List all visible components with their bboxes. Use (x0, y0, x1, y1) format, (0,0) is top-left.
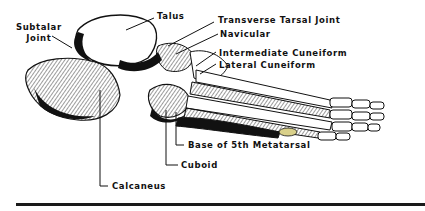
calcaneus-bone (26, 58, 120, 120)
label-navicular: Navicular (220, 30, 271, 39)
label-intermediate-cuneiform: Intermediate Cuneiform (219, 49, 347, 58)
label-base-5th-metatarsal: Base of 5th Metatarsal (188, 141, 310, 150)
label-transverse-tarsal-joint: Transverse Tarsal Joint (218, 16, 340, 25)
label-cuboid: Cuboid (181, 161, 218, 170)
bottom-rule-divider (16, 203, 425, 206)
foot-bones-illustration (0, 0, 425, 211)
label-subtalar-joint: Subtalar Joint (16, 22, 62, 44)
label-calcaneus: Calcaneus (112, 182, 166, 191)
metatarsal-bones (176, 70, 332, 138)
label-talus: Talus (157, 12, 184, 21)
navicular-bone (156, 43, 194, 71)
label-lateral-cuneiform: Lateral Cuneiform (219, 61, 316, 70)
